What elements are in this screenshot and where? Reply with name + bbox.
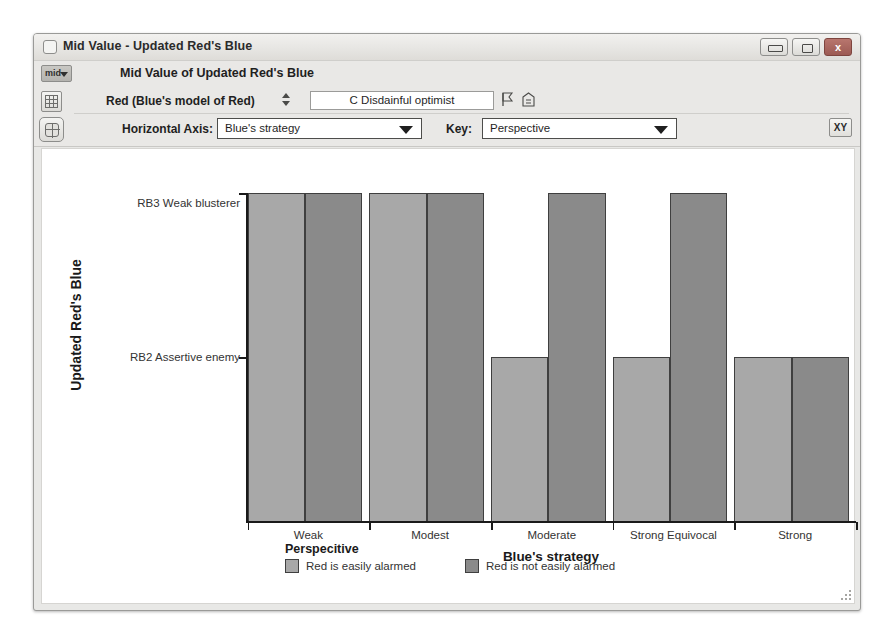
bar[interactable] [613,357,670,521]
toolbar-row-title: mid Mid Value of Updated Red's Blue [34,62,860,88]
bar[interactable] [427,193,484,521]
key-value: Perspective [490,122,550,134]
y-axis-tick-label: RB3 Weak blusterer [72,197,240,209]
legend-label: Red is easily alarmed [306,560,416,572]
bar-group [613,193,735,521]
bars-layer [248,193,856,521]
horizontal-axis-value: Blue's strategy [225,122,300,134]
legend: Perspecitive Red is easily alarmedRed is… [285,542,615,573]
y-axis-title: Updated Red's Blue [68,215,84,435]
bar-group [491,193,613,521]
plot-area [246,193,856,523]
x-axis-category-label: Modest [369,529,491,541]
key-label: Key: [446,122,472,136]
bar-group [248,193,370,521]
legend-items: Red is easily alarmedRed is not easily a… [285,559,615,573]
picker-input[interactable]: C Disdainful optimist [310,91,494,110]
bar[interactable] [792,357,849,521]
toolbar: mid Mid Value of Updated Red's Blue [34,61,860,147]
chevron-down-icon [399,126,413,134]
resize-grip[interactable] [841,590,851,600]
toolbar-row-picker: Red (Blue's model of Red) C Disdainful o… [34,88,860,115]
key-select[interactable]: Perspective [482,118,677,139]
grid-glyph [45,95,58,108]
y-axis-tick-label: RB2 Assertive enemy [72,351,240,363]
flag-icon-svg [500,91,515,108]
close-icon: x [825,39,851,55]
bar[interactable] [491,357,548,521]
chart-canvas: Updated Red's Blue RB3 Weak blustererRB2… [41,148,855,604]
x-axis-tick [856,522,858,530]
toolbar-bottom-divider [34,146,860,147]
x-axis-category-label: Strong Equivocal [613,529,735,541]
maximize-button[interactable] [792,38,820,56]
toolbar-divider [74,113,849,114]
chevron-down-icon [60,72,68,77]
bar-group [734,193,856,521]
mid-button-label: mid [45,68,61,78]
bar[interactable] [305,193,362,521]
picker-label: Red (Blue's model of Red) [106,94,255,108]
minimize-button[interactable] [760,38,788,56]
building-icon-svg [521,91,536,108]
screenshot-root: Mid Value - Updated Red's Blue x mid Mid… [0,0,883,640]
building-icon[interactable] [521,91,536,108]
chevron-down-icon [654,126,668,134]
flag-icon[interactable] [500,91,515,108]
table-glyph [45,123,59,137]
horizontal-axis-select[interactable]: Blue's strategy [217,118,422,139]
x-axis-category-label: Weak [248,529,370,541]
bar[interactable] [548,193,605,521]
x-axis-line [246,521,856,523]
legend-label: Red is not easily alarmed [486,560,615,572]
close-button[interactable]: x [824,38,852,56]
window-titlebar[interactable]: Mid Value - Updated Red's Blue x [34,34,860,61]
window-title: Mid Value - Updated Red's Blue [63,39,252,53]
application-window: Mid Value - Updated Red's Blue x mid Mid… [33,33,861,611]
mid-value-dropdown-button[interactable]: mid [41,65,72,82]
legend-item[interactable]: Red is not easily alarmed [465,559,615,573]
y-axis-tick [239,357,247,359]
xy-button[interactable]: XY [829,118,852,137]
bar[interactable] [369,193,426,521]
toolbar-row-axis: Horizontal Axis: Blue's strategy Key: Pe… [34,115,860,145]
horizontal-axis-label: Horizontal Axis: [122,122,213,136]
legend-item[interactable]: Red is easily alarmed [285,559,416,573]
x-axis-category-label: Strong [734,529,856,541]
window-buttons: x [760,38,852,56]
y-axis-tick [239,193,247,195]
bar[interactable] [248,193,305,521]
window-icon [43,40,57,54]
table-icon[interactable] [39,117,64,142]
bar[interactable] [734,357,791,521]
legend-swatch [465,559,479,573]
x-axis-category-label: Moderate [491,529,613,541]
up-down-arrow-icon[interactable] [279,92,293,108]
legend-swatch [285,559,299,573]
chart-title: Mid Value of Updated Red's Blue [120,66,314,80]
picker-action-icons [500,91,536,108]
bar-group [369,193,491,521]
grid-icon[interactable] [41,91,62,112]
legend-title: Perspecitive [285,542,615,556]
bar[interactable] [670,193,727,521]
